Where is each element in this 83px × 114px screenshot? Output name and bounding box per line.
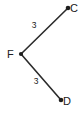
- vertex-dot-f: [19, 52, 23, 56]
- segment-fc-length-label: 3: [32, 20, 37, 30]
- vertex-label-f: F: [7, 48, 14, 60]
- figure-canvas: F C D 3 3: [0, 0, 83, 114]
- segment-fd-length-label: 3: [34, 76, 39, 86]
- segment-fc-line: [21, 8, 68, 54]
- vertex-label-c: C: [70, 2, 78, 14]
- geometry-figure: F C D 3 3: [0, 0, 83, 114]
- vertex-label-d: D: [63, 95, 71, 107]
- segment-fd-line: [21, 54, 61, 100]
